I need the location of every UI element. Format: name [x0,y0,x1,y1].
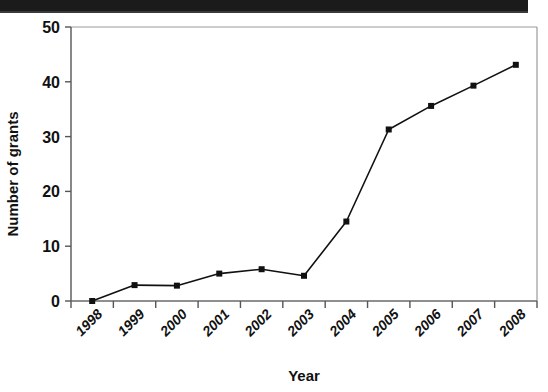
y-axis-ticks [65,27,71,301]
x-tick-label: 1999 [114,306,147,339]
x-tick-label: 2001 [198,306,232,340]
data-point-marker [132,282,138,288]
x-tick-label: 1998 [72,306,105,339]
x-tick-label: 2007 [453,305,488,340]
y-tick-label: 30 [42,129,60,146]
figure-canvas: 01020304050 1998199920002001200220032004… [0,0,548,392]
y-tick-label: 50 [42,19,60,36]
data-point-marker [259,266,265,272]
x-tick-label: 2002 [241,306,275,340]
data-point-marker [386,126,392,132]
series-markers-number-of-grants [89,62,519,304]
data-point-marker [174,283,180,289]
y-tick-label: 20 [42,183,60,200]
y-axis-title: Number of grants [4,111,21,236]
data-point-marker [216,271,222,277]
x-axis-tick-labels: 1998199920002001200220032004200520062007… [72,305,529,340]
y-tick-label: 10 [42,238,60,255]
y-axis-tick-labels: 01020304050 [42,19,60,310]
data-point-marker [470,83,476,89]
x-tick-label: 2003 [283,306,317,340]
x-tick-label: 2004 [325,306,359,340]
x-axis-title: Year [288,367,320,384]
x-tick-label: 2006 [410,306,444,340]
x-tick-label: 2000 [156,306,190,340]
line-chart: 01020304050 1998199920002001200220032004… [0,0,548,392]
series-line-number-of-grants [92,65,516,301]
y-tick-label: 40 [42,74,60,91]
y-tick-label: 0 [51,293,60,310]
x-tick-label: 2005 [368,306,402,340]
data-point-marker [513,62,519,68]
plot-frame [71,27,537,301]
data-point-marker [301,273,307,279]
data-point-marker [343,219,349,225]
data-point-marker [89,298,95,304]
x-tick-label: 2008 [495,306,529,340]
data-point-marker [428,103,434,109]
